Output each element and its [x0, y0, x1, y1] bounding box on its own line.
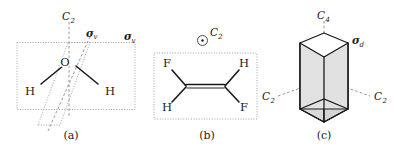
c2-axis-symbol: C	[62, 10, 70, 22]
c2-axis-right-label: C 2	[374, 90, 388, 105]
bond-c-f-bottom-right	[225, 87, 239, 102]
sigma-d-label: σ d	[352, 34, 365, 49]
c2-axis-subscript-b: 2	[217, 33, 223, 41]
sigma-d-subscript: d	[360, 41, 365, 49]
atom-fluorine-top-left: F	[163, 56, 171, 70]
symmetry-elements-figure: C 2 σ v σ v O H H (a) C	[0, 0, 394, 153]
bond-o-h-right	[76, 66, 98, 84]
sigma-v-inclined-trace	[48, 32, 92, 131]
atom-hydrogen-right: H	[105, 84, 115, 98]
atom-hydrogen-top-right: H	[239, 56, 249, 70]
c2-axis-left-symbol: C	[262, 90, 270, 102]
sigma-v-inclined-label: σ v	[86, 27, 98, 42]
panel-b: C 2 F H H F (b)	[154, 26, 257, 142]
panel-caption-a: (a)	[63, 129, 78, 142]
bond-c-h-top-right	[225, 70, 239, 86]
c2-axis-out-of-plane-icon	[198, 36, 208, 46]
c4-axis-symbol: C	[317, 9, 325, 21]
c2-axis-subscript: 2	[70, 17, 76, 25]
panel-caption-c: (c)	[317, 129, 332, 142]
c2-axis-right-symbol: C	[374, 90, 382, 102]
atom-fluorine-bottom-right: F	[240, 100, 248, 114]
atom-oxygen: O	[60, 55, 69, 69]
panel-c: C 4 C 2 C 2 σ d	[262, 9, 388, 142]
c2-axis-symbol-b: C	[210, 26, 218, 38]
bond-c-f-top-left	[172, 70, 186, 86]
c2-axis-right-subscript: 2	[382, 97, 388, 105]
c2-axis-label-b: C 2	[210, 26, 223, 41]
panel-a: C 2 σ v σ v O H H (a)	[17, 10, 136, 142]
c2-axis-left-label: C 2	[262, 90, 276, 105]
c4-axis-label: C 4	[317, 9, 330, 24]
atom-hydrogen-left: H	[25, 84, 35, 98]
atom-hydrogen-bottom-left: H	[162, 100, 172, 114]
panel-caption-b: (b)	[199, 129, 215, 142]
c4-axis-subscript: 4	[325, 16, 330, 24]
bond-c-h-bottom-left	[172, 87, 186, 102]
c2-axis-left-subscript: 2	[270, 97, 276, 105]
sigma-v-plane-molecular	[17, 43, 135, 110]
sigma-v-inclined-subscript: v	[94, 33, 98, 41]
sigma-v-molecular-subscript: v	[132, 37, 136, 45]
